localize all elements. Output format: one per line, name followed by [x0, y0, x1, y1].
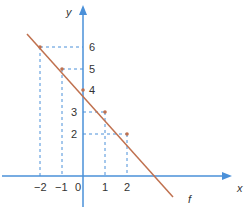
y-tick-2: 2: [71, 128, 77, 140]
y-axis-arrow-icon: [79, 5, 87, 15]
y-tick-4: 4: [89, 84, 95, 96]
point-neg1-5: [60, 67, 64, 71]
function-graph: 6 5 4 3 2 −2 −1 0 1 2 y x f: [0, 0, 246, 213]
function-line-f: [27, 34, 173, 197]
point-2-2: [125, 132, 129, 136]
y-tick-3: 3: [71, 106, 77, 118]
x-tick-neg1: −1: [55, 181, 68, 193]
function-label: f: [188, 193, 192, 205]
y-axis-label: y: [65, 6, 73, 18]
x-tick-1: 1: [102, 181, 108, 193]
x-axis-arrow-icon: [222, 172, 232, 180]
x-tick-2: 2: [124, 181, 130, 193]
point-1-3: [103, 110, 107, 114]
point-0-4: [81, 88, 85, 92]
x-tick-neg2: −2: [34, 181, 47, 193]
x-axis-label: x: [236, 182, 243, 194]
y-tick-6: 6: [89, 41, 95, 53]
y-tick-5: 5: [89, 63, 95, 75]
point-neg2-6: [38, 45, 42, 49]
x-axis: [2, 172, 232, 180]
origin-label: 0: [75, 181, 81, 193]
